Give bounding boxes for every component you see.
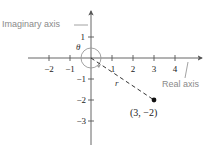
x-tick-label: 4	[173, 64, 178, 74]
point-marker	[152, 98, 157, 103]
y-tick-label: −3	[76, 116, 86, 126]
x-tick-label: 1	[111, 64, 116, 74]
x-tick-label: −1	[65, 64, 75, 74]
r-label: r	[115, 78, 119, 88]
imaginary-axis-label: Imaginary axis	[2, 19, 61, 29]
y-tick-label: 1	[81, 32, 86, 42]
complex-plane-diagram: −2 −1 1 2 3 4 1 −1 −2 −3 θ r (3, −2) Ima…	[0, 0, 212, 150]
x-tick-label: 3	[152, 64, 157, 74]
x-tick-label: 2	[131, 64, 136, 74]
x-tick-label: −2	[44, 64, 54, 74]
y-tick-label: −1	[76, 74, 86, 84]
theta-label: θ	[76, 42, 81, 52]
real-axis-leader	[185, 62, 188, 78]
point-label: (3, −2)	[130, 107, 157, 119]
y-tick-label: −2	[76, 95, 86, 105]
real-axis-label: Real axis	[162, 79, 200, 89]
